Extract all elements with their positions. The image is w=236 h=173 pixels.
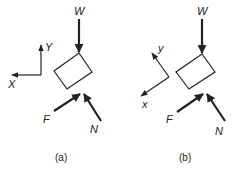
- panel-b: y x W F N (b): [141, 5, 225, 163]
- y-axis-arrow-icon: [152, 53, 169, 77]
- friction-arrow-icon: [54, 94, 80, 111]
- panel-a: Y X W F N (a): [7, 5, 101, 163]
- axes-a: Y X: [7, 41, 53, 90]
- y-axis-label: y: [157, 42, 165, 54]
- weight-label: W: [197, 5, 209, 17]
- normal-label: N: [90, 123, 98, 135]
- normal-label: N: [215, 125, 223, 137]
- caption-a: (a): [55, 152, 67, 163]
- caption-b: (b): [179, 152, 191, 163]
- y-axis-label: Y: [45, 41, 53, 53]
- free-body-diagrams: Y X W F N (a) y x W F N (b): [0, 0, 236, 173]
- friction-arrow-icon: [177, 94, 203, 112]
- friction-label: F: [43, 113, 51, 125]
- axes-b: y x: [141, 42, 169, 110]
- block-a: [54, 53, 92, 89]
- x-axis-label: X: [7, 78, 16, 90]
- weight-label: W: [74, 5, 86, 17]
- friction-label: F: [166, 113, 174, 125]
- normal-arrow-icon: [207, 94, 225, 121]
- x-axis-arrow-icon: [141, 77, 169, 96]
- x-axis-label: x: [141, 98, 148, 110]
- block-b: [176, 54, 215, 89]
- normal-arrow-icon: [84, 94, 101, 121]
